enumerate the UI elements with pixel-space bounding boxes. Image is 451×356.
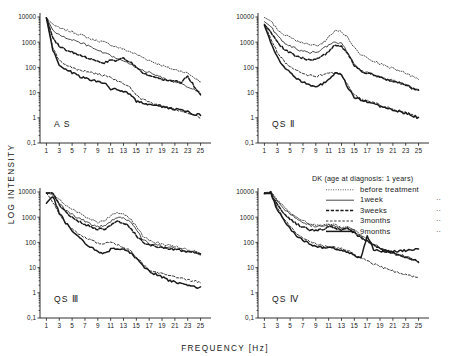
x-tick-label: 25 [415, 147, 423, 154]
panel-label: QS Ⅲ [54, 294, 79, 304]
panel-qs-iv: 1000010001001010,1135791113151719212325Q… [236, 188, 429, 329]
x-tick-label: 25 [197, 147, 205, 154]
curve-dashed [46, 18, 200, 118]
x-tick-label: 13 [120, 147, 128, 154]
y-tick-label: 100 [25, 239, 36, 246]
x-tick-label: 19 [376, 322, 384, 329]
legend-ditto-mark: ·· [436, 207, 441, 214]
y-tick-label: 10000 [18, 188, 36, 195]
legend-label: 9months [360, 227, 391, 236]
legend-ditto-mark: ·· [436, 196, 441, 203]
x-tick-label: 1 [45, 322, 49, 329]
x-tick-label: 19 [158, 322, 166, 329]
y-tick-label: 1 [32, 114, 36, 121]
panel-qs-ii: 1000010001001010,1135791113151719212325Q… [236, 13, 429, 154]
y-tick-label: 10 [29, 264, 37, 271]
curve-dashdot [46, 193, 200, 254]
x-tick-label: 15 [133, 322, 141, 329]
legend-ditto-mark: ·· [436, 217, 441, 224]
panel-label: QS Ⅱ [272, 119, 295, 129]
x-tick-label: 13 [338, 322, 346, 329]
x-tick-label: 25 [197, 322, 205, 329]
x-tick-label: 3 [275, 147, 279, 154]
y-tick-label: 1000 [22, 214, 37, 221]
y-tick-label: 1 [32, 289, 36, 296]
x-tick-label: 13 [338, 147, 346, 154]
y-tick-label: 100 [25, 64, 36, 71]
y-tick-label: 0,1 [27, 314, 36, 321]
legend-title: DK (age at diagnosis: 1 years) [312, 174, 413, 183]
x-tick-label: 21 [389, 322, 397, 329]
curve-solid-thick [264, 26, 418, 119]
y-tick-label: 10 [29, 89, 37, 96]
y-tick-label: 1000 [240, 39, 255, 46]
panel-qs-iii: 1000010001001010,1135791113151719212325Q… [18, 188, 211, 329]
x-tick-label: 23 [402, 147, 410, 154]
x-tick-label: 7 [83, 147, 87, 154]
x-tick-label: 9 [314, 322, 318, 329]
x-tick-label: 5 [288, 322, 292, 329]
x-tick-label: 9 [96, 322, 100, 329]
x-tick-label: 1 [263, 322, 267, 329]
x-tick-label: 3 [275, 322, 279, 329]
x-tick-label: 3 [57, 322, 61, 329]
curve-dashdot [46, 18, 200, 95]
figure-canvas: 1000010001001010,1135791113151719212325A… [0, 0, 451, 356]
x-tick-label: 15 [351, 322, 359, 329]
legend-label: 3months [360, 216, 391, 225]
y-tick-label: 100 [243, 64, 254, 71]
x-tick-label: 1 [263, 147, 267, 154]
curve-solid-thin [264, 22, 418, 90]
x-tick-label: 23 [184, 147, 192, 154]
x-tick-label: 1 [45, 147, 49, 154]
curve-solid-thick [46, 197, 200, 288]
x-tick-label: 11 [325, 147, 332, 154]
x-tick-label: 7 [83, 322, 87, 329]
y-tick-label: 10000 [236, 13, 254, 20]
curve-dashdot [264, 25, 418, 91]
curve-dashed [264, 192, 418, 277]
y-tick-label: 10000 [236, 188, 254, 195]
x-tick-label: 21 [171, 147, 179, 154]
curve-dashed [46, 193, 200, 283]
legend-label: 3weeks [360, 206, 387, 215]
x-tick-label: 15 [351, 147, 359, 154]
eeg-power-spectra-figure: 1000010001001010,1135791113151719212325A… [0, 0, 451, 356]
curve-solid-thin [46, 18, 200, 94]
x-tick-label: 17 [363, 322, 371, 329]
y-tick-label: 10 [247, 89, 255, 96]
y-tick-label: 0,1 [27, 139, 36, 146]
x-tick-label: 21 [171, 322, 179, 329]
legend-ditto-mark: ·· [436, 228, 441, 235]
x-tick-label: 25 [415, 322, 423, 329]
y-tick-label: 1 [250, 114, 254, 121]
y-tick-label: 10 [247, 264, 255, 271]
x-tick-label: 23 [402, 322, 410, 329]
y-tick-label: 100 [243, 239, 254, 246]
x-tick-label: 11 [107, 147, 114, 154]
x-tick-label: 9 [96, 147, 100, 154]
x-tick-label: 5 [70, 322, 74, 329]
x-tick-label: 17 [145, 322, 153, 329]
curve-dashed [264, 24, 418, 117]
x-tick-label: 5 [288, 147, 292, 154]
x-tick-label: 9 [314, 147, 318, 154]
x-tick-label: 13 [120, 322, 128, 329]
x-axis-title: FREQUENCY [Hz] [181, 344, 269, 353]
panel-label: A S [54, 119, 71, 129]
curve-dotted [46, 18, 200, 82]
x-tick-label: 19 [158, 147, 166, 154]
x-tick-label: 7 [301, 322, 305, 329]
x-tick-label: 17 [145, 147, 153, 154]
y-tick-label: 1000 [22, 39, 37, 46]
x-tick-label: 15 [133, 147, 141, 154]
y-axis-title: LOG INTENSITY [7, 144, 16, 225]
x-tick-label: 19 [376, 147, 384, 154]
y-tick-label: 10000 [18, 13, 36, 20]
y-tick-label: 0,1 [245, 314, 254, 321]
x-tick-label: 17 [363, 147, 371, 154]
x-tick-label: 11 [107, 322, 114, 329]
y-tick-label: 1 [250, 289, 254, 296]
x-tick-label: 7 [301, 147, 305, 154]
x-tick-label: 23 [184, 322, 192, 329]
